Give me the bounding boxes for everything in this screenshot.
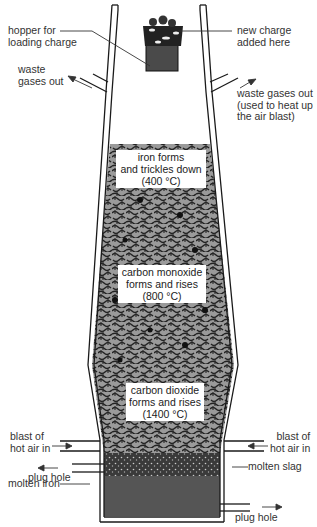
- molten-iron-layer: [104, 476, 220, 516]
- waste-right-line1: waste gases out: [237, 88, 313, 100]
- hopper-label-line1: hopper for: [8, 25, 77, 37]
- zone-carbon-monoxide: carbon monoxide forms and rises (800 °C): [118, 265, 206, 303]
- zone1-line2: and trickles down: [119, 163, 203, 175]
- waste-gases-left-label: waste gases out: [18, 64, 64, 87]
- zone2-line3: (800 °C): [121, 290, 203, 302]
- zone1-line3: (400 °C): [119, 175, 203, 187]
- waste-right-line3: the air blast): [237, 111, 313, 123]
- blast-left-line2: hot air in: [10, 443, 50, 455]
- new-charge-label: new charge added here: [237, 25, 291, 48]
- hopper: [143, 16, 183, 72]
- blast-left-label: blast of hot air in: [10, 431, 50, 454]
- blast-right-label: blast of hot air in: [270, 431, 310, 454]
- zone2-line2: forms and rises: [121, 278, 203, 290]
- waste-gases-right-label: waste gases out (used to heat up the air…: [237, 88, 313, 123]
- new-charge-line1: new charge: [237, 25, 291, 37]
- zone3-line1: carbon dioxide: [129, 384, 201, 396]
- plug-hole-right-label: plug hole: [235, 512, 278, 524]
- zone3-line2: forms and rises: [129, 396, 201, 408]
- zone1-line1: iron forms: [119, 151, 203, 163]
- molten-iron-label: molten iron: [8, 478, 60, 490]
- zone3-line3: (1400 °C): [129, 408, 201, 420]
- blast-left-line1: blast of: [10, 431, 50, 443]
- new-charge-line2: added here: [237, 37, 291, 49]
- waste-left-line1: waste: [18, 64, 64, 76]
- waste-left-line2: gases out: [18, 76, 64, 88]
- molten-slag-layer: [104, 453, 220, 476]
- molten-slag-label: molten slag: [248, 461, 302, 473]
- zone2-line1: carbon monoxide: [121, 266, 203, 278]
- hopper-label: hopper for loading charge: [8, 25, 77, 48]
- zone-iron-forms: iron forms and trickles down (400 °C): [116, 150, 206, 188]
- blast-right-line1: blast of: [270, 431, 310, 443]
- zone-carbon-dioxide: carbon dioxide forms and rises (1400 °C): [126, 383, 204, 421]
- hopper-label-line2: loading charge: [8, 37, 77, 49]
- blast-right-line2: hot air in: [270, 443, 310, 455]
